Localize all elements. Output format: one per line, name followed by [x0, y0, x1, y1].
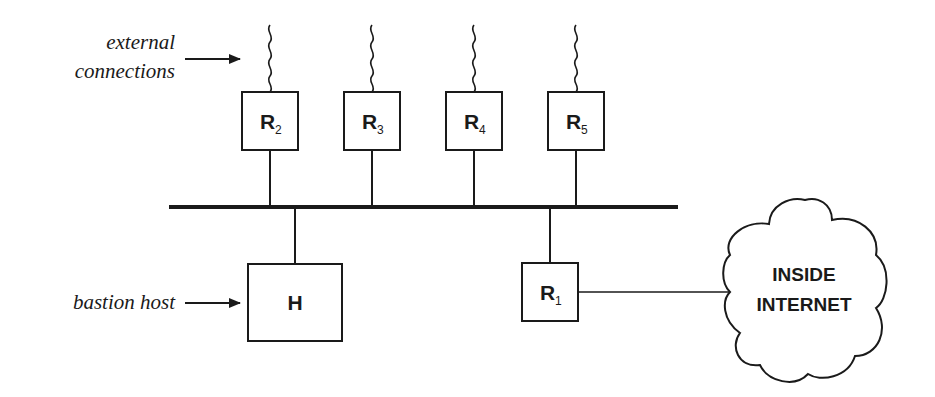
- wavy-line-r3: [371, 25, 374, 92]
- cloud-label-line1: INSIDE: [772, 264, 835, 285]
- cloud-icon: [723, 199, 886, 382]
- wavy-line-r4: [473, 25, 476, 92]
- router-r5: R 5: [548, 92, 604, 150]
- router-subscript: 4: [479, 123, 486, 137]
- router-letter: R: [540, 281, 555, 304]
- external-label-line1: external: [106, 30, 175, 54]
- router-r4: R 4: [446, 92, 502, 150]
- router-subscript: 3: [377, 123, 384, 137]
- router-letter: R: [362, 110, 377, 133]
- bastion-host-label: bastion host: [73, 290, 176, 314]
- router-letter: R: [260, 110, 275, 133]
- bastion-host: H: [248, 264, 342, 341]
- router-r3: R 3: [344, 92, 400, 150]
- external-label-line2: connections: [75, 59, 175, 83]
- router-subscript: 2: [275, 123, 282, 137]
- wavy-line-r2: [269, 25, 272, 92]
- router-subscript: 1: [555, 294, 562, 308]
- external-connection-lines: [269, 25, 578, 92]
- router-r2: R 2: [242, 92, 298, 150]
- external-connections-label: external connections: [75, 30, 175, 83]
- router-letter: R: [566, 110, 581, 133]
- router-r1: R 1: [522, 263, 578, 321]
- bastion-host-letter: H: [287, 291, 302, 314]
- router-drops: [270, 150, 576, 206]
- network-diagram: external connections R 2 R 3 R 4 R 5: [0, 0, 935, 397]
- inside-internet-cloud: INSIDE INTERNET: [723, 199, 886, 382]
- wavy-line-r5: [575, 25, 578, 92]
- cloud-label-line2: INTERNET: [757, 294, 852, 315]
- router-letter: R: [464, 110, 479, 133]
- router-subscript: 5: [581, 123, 588, 137]
